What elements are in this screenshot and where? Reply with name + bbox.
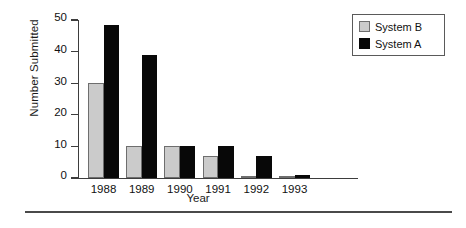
y-tick: 30 xyxy=(71,83,78,84)
bar xyxy=(241,176,257,178)
bar xyxy=(88,83,104,178)
y-tick-mark xyxy=(71,114,78,115)
y-tick-label: 20 xyxy=(27,106,67,118)
bar xyxy=(164,146,180,178)
y-tick-mark xyxy=(71,51,78,52)
x-axis-title: Year xyxy=(78,192,318,204)
y-tick: 40 xyxy=(71,51,78,52)
y-tick-label: 50 xyxy=(27,11,67,23)
y-tick-mark xyxy=(71,146,78,147)
y-tick-label: 10 xyxy=(27,138,67,150)
legend-label-system-a: System A xyxy=(375,38,421,50)
bar xyxy=(279,176,295,178)
y-tick: 20 xyxy=(71,114,78,115)
y-tick: 10 xyxy=(71,146,78,147)
legend-swatch-system-a xyxy=(359,38,370,49)
y-tick: 0 xyxy=(71,177,78,178)
legend-item-system-a: System A xyxy=(359,36,421,51)
bar xyxy=(256,156,272,178)
y-tick-label: 0 xyxy=(27,169,67,181)
bar-chart-figure: Number Submitted 01020304050 19881989199… xyxy=(0,0,466,228)
y-tick-mark xyxy=(71,177,78,178)
y-tick-mark xyxy=(71,83,78,84)
y-tick: 50 xyxy=(71,19,78,20)
legend: System B System A xyxy=(352,14,445,56)
legend-swatch-system-b xyxy=(359,21,370,32)
y-tick-label: 30 xyxy=(27,75,67,87)
plot-area: 01020304050 198819891990199119921993 xyxy=(78,20,358,178)
bar xyxy=(295,175,311,178)
bar xyxy=(104,25,120,178)
bar xyxy=(203,156,219,178)
y-axis-line xyxy=(78,20,79,178)
legend-label-system-b: System B xyxy=(375,21,422,33)
bar xyxy=(142,55,158,178)
bar xyxy=(126,146,142,178)
bar xyxy=(180,146,196,178)
x-axis-line xyxy=(78,178,358,179)
y-tick-mark xyxy=(71,19,78,20)
y-tick-label: 40 xyxy=(27,43,67,55)
bottom-divider-rule xyxy=(25,211,452,213)
legend-item-system-b: System B xyxy=(359,19,422,34)
bar xyxy=(218,146,234,178)
